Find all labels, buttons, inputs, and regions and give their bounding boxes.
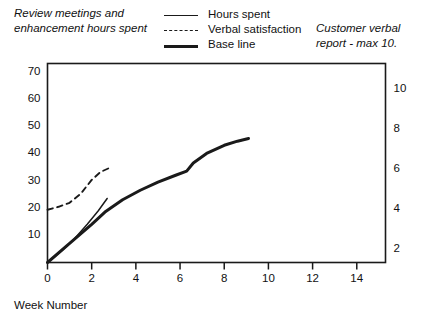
y-tick-label-right: 6	[394, 162, 418, 174]
y-tick-label-left: 40	[15, 146, 41, 158]
y-tick-label-left: 50	[15, 119, 41, 131]
y-tick-label-right: 4	[394, 202, 418, 214]
axes-frame	[48, 64, 386, 263]
y-tick-label-left: 70	[15, 65, 41, 77]
y-tick-label-left: 10	[15, 228, 41, 240]
series-line	[48, 168, 110, 210]
x-axis-title: Week Number	[14, 299, 87, 311]
x-tick-label: 2	[82, 272, 102, 284]
x-tick-label: 8	[214, 272, 234, 284]
y-tick-label-right: 10	[394, 82, 418, 94]
y-tick-label-left: 20	[15, 201, 41, 213]
series-line	[48, 138, 249, 262]
y-tick-label-left: 30	[15, 174, 41, 186]
chart-figure: Review meetings and enhancement hours sp…	[0, 0, 426, 328]
x-tick-label: 12	[303, 272, 323, 284]
y-tick-label-left: 60	[15, 92, 41, 104]
x-tick-label: 0	[38, 272, 58, 284]
y-tick-label-right: 2	[394, 242, 418, 254]
y-tick-label-right: 8	[394, 122, 418, 134]
x-tick-label: 4	[126, 272, 146, 284]
x-tick-label: 14	[347, 272, 367, 284]
x-tick-label: 10	[258, 272, 278, 284]
x-tick-label: 6	[170, 272, 190, 284]
